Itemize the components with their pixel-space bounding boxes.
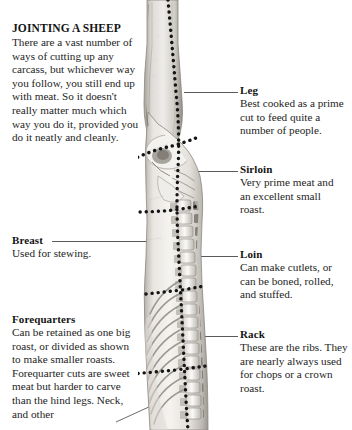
breast-body: Used for stewing. [12, 247, 142, 261]
forequarters-heading: Forequarters [12, 313, 140, 326]
intro-block: JOINTING A SHEEP There are a vast number… [12, 22, 140, 145]
loin-body: Can make cutlets, or can be boned, rolle… [240, 261, 348, 302]
page-title: JOINTING A SHEEP [12, 22, 140, 35]
rack-heading: Rack [240, 328, 350, 341]
forequarters-body: Can be retained as one big roast, or div… [12, 326, 140, 421]
page-root: JOINTING A SHEEP There are a vast number… [0, 0, 352, 430]
sirloin-body: Very prime meat and an excellent small r… [240, 176, 344, 217]
intro-text: There are a vast number of ways of cutti… [12, 36, 140, 145]
label-block-leg: Leg Best cooked as a prime cut to feed q… [240, 84, 344, 138]
label-block-rack: Rack These are the ribs. They are nearly… [240, 328, 350, 395]
label-block-forequarters: Forequarters Can be retained as one big … [12, 313, 140, 421]
label-block-breast: Breast Used for stewing. [12, 234, 142, 261]
leg-heading: Leg [240, 84, 344, 97]
sheep-carcass-illustration [138, 0, 244, 430]
sirloin-heading: Sirloin [240, 163, 344, 176]
label-block-sirloin: Sirloin Very prime meat and an excellent… [240, 163, 344, 217]
rack-body: These are the ribs. They are nearly alwa… [240, 341, 350, 395]
leg-body: Best cooked as a prime cut to feed quite… [240, 97, 344, 138]
loin-heading: Loin [240, 248, 348, 261]
label-block-loin: Loin Can make cutlets, or can be boned, … [240, 248, 348, 302]
